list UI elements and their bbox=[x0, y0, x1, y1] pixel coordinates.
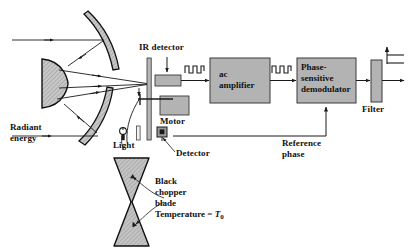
slit bbox=[137, 126, 141, 140]
ac-amplifier-line2: amplifier bbox=[219, 80, 255, 90]
ac-amplifier-line1: ac bbox=[219, 69, 228, 79]
chopper-line1: Black bbox=[155, 176, 177, 186]
lamp-icon bbox=[120, 128, 127, 141]
ir-detector-label: IR detector bbox=[139, 42, 184, 53]
detector-label: Detector bbox=[176, 148, 210, 159]
ac-amplifier-label: acamplifier bbox=[219, 69, 255, 91]
chopper-line2: chopper bbox=[155, 187, 187, 197]
converging-rays bbox=[57, 70, 150, 99]
light-label: Light bbox=[113, 140, 135, 151]
demodulator-line1: Phase- bbox=[301, 62, 327, 72]
detector-leader bbox=[163, 138, 175, 152]
radiant-energy-line2: energy bbox=[10, 133, 37, 143]
filter-block bbox=[371, 60, 382, 102]
reference-phase-line2: phase bbox=[282, 149, 305, 159]
chopper-line3: blade bbox=[155, 198, 176, 208]
ir-detector bbox=[155, 75, 181, 86]
demodulator-line2: sensitive bbox=[301, 73, 334, 83]
photodetector bbox=[157, 127, 167, 141]
diagram-canvas: Radiantenergy IR detector Motor Light De… bbox=[0, 0, 410, 251]
square-wave-icon-1 bbox=[185, 66, 204, 73]
motor-label: Motor bbox=[160, 116, 185, 127]
radiant-energy-line1: Radiant bbox=[10, 122, 42, 132]
step-level-icon bbox=[387, 47, 404, 64]
reference-phase-path bbox=[173, 107, 326, 136]
chopper-temp-prefix: Temperature = bbox=[155, 209, 215, 219]
chopper-temp-subscript: 0 bbox=[220, 213, 224, 221]
phase-sensitive-demodulator-label: Phase-sensitivedemodulator bbox=[301, 62, 351, 95]
radiant-energy-label: Radiantenergy bbox=[10, 122, 42, 143]
demodulator-line3: demodulator bbox=[301, 84, 351, 94]
chopper-temperature: Temperature = T0 bbox=[155, 209, 224, 219]
filter-label: Filter bbox=[362, 104, 384, 115]
primary-mirror-upper bbox=[84, 11, 119, 70]
ray-upper-reflect bbox=[68, 41, 103, 66]
chopper-blade-label: BlackchopperbladeTemperature = T0 bbox=[155, 176, 224, 223]
reference-phase-line1: Reference bbox=[282, 138, 321, 148]
chopper-blade bbox=[114, 158, 149, 246]
ray-lower-reflect bbox=[64, 104, 97, 133]
secondary-mirror bbox=[42, 59, 68, 108]
reference-phase-label: Referencephase bbox=[282, 138, 321, 159]
square-wave-icon-2 bbox=[272, 66, 291, 73]
